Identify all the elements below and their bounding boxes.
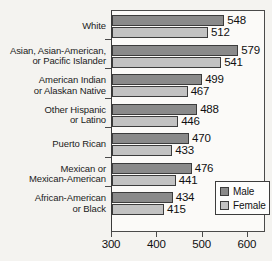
x-axis-tick [247,232,248,237]
category-label: White [0,21,106,32]
y-axis-tick [105,157,111,158]
x-axis-tick-label: 600 [238,238,257,251]
x-axis-tick-label: 300 [102,238,121,251]
bar-female [112,145,172,156]
x-axis-tick-label: 400 [147,238,166,251]
bar-value-label: 467 [191,86,210,97]
category-label-line: or Pacific Islander [0,56,106,67]
legend-swatch-male-icon [220,187,229,196]
bar-value-label: 512 [211,27,230,38]
category-label-line: Mexican-American [0,174,106,185]
x-axis-tick [111,232,112,237]
bar-value-label: 446 [181,116,200,127]
bar-value-label: 476 [195,163,214,174]
bar-value-label: 433 [175,145,194,156]
y-axis-tick [105,39,111,40]
bar-value-label: 434 [176,192,195,203]
category-label: American Indianor Alaskan Native [0,75,106,96]
category-label: African-Americanor Black [0,193,106,214]
bar-male [112,45,238,56]
y-axis-tick [105,98,111,99]
legend-label-male: Male [233,186,254,197]
category-label: Other Hispanicor Latino [0,105,106,126]
bar-female [112,116,178,127]
bar-value-label: 541 [224,57,243,68]
category-label-line: or Latino [0,115,106,126]
bar-chart: WhiteAsian, Asian-American,or Pacific Is… [0,0,272,261]
y-axis-tick [105,127,111,128]
bar-female [112,27,208,38]
category-label-line: Puerto Rican [0,139,106,150]
legend: Male Female [215,181,270,215]
y-axis-tick [105,68,111,69]
bar-value-label: 579 [241,45,260,56]
bar-female [112,204,164,215]
bar-value-label: 548 [227,15,246,26]
bar-female [112,175,176,186]
category-label-line: African-American [0,193,106,204]
legend-item-female: Female [220,199,266,212]
category-label: Puerto Rican [0,139,106,150]
bar-female [112,86,188,97]
bar-value-label: 488 [200,104,219,115]
bar-value-label: 441 [179,175,198,186]
category-label-line: or Black [0,204,106,215]
bar-female [112,57,221,68]
x-axis-tick-label: 500 [192,238,211,251]
bar-male [112,163,192,174]
category-label-line: White [0,21,106,32]
bar-male [112,15,224,26]
bar-value-label: 499 [205,74,224,85]
bar-male [112,104,197,115]
category-label: Mexican orMexican-American [0,164,106,185]
legend-item-male: Male [220,185,266,198]
x-axis-labels: 300400500600 [0,238,272,254]
category-label-line: or Alaskan Native [0,86,106,97]
bar-value-label: 415 [167,204,186,215]
x-axis-tick [202,232,203,237]
category-label-line: American Indian [0,75,106,86]
bar-value-label: 470 [192,133,211,144]
bar-male [112,74,202,85]
bar-male [112,192,173,203]
legend-label-female: Female [233,200,266,211]
category-axis-labels: WhiteAsian, Asian-American,or Pacific Is… [0,10,106,232]
y-axis-tick [105,186,111,187]
bar-male [112,133,189,144]
x-axis-tick [156,232,157,237]
category-label: Asian, Asian-American,or Pacific Islande… [0,46,106,67]
legend-swatch-female-icon [220,201,229,210]
